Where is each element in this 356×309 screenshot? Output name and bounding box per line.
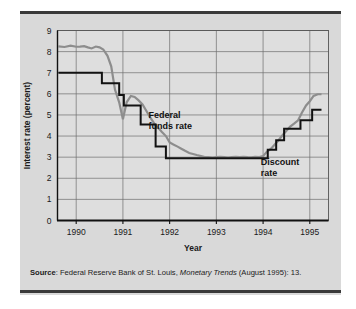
y-tick-label: 5 xyxy=(47,110,52,120)
chart-plot-wrapper: 0123456789199019911992199319941995YearIn… xyxy=(0,0,356,309)
x-axis-title: Year xyxy=(184,243,203,253)
source-note: Source: Federal Reserve Bank of St. Loui… xyxy=(30,268,332,277)
x-tick-label: 1990 xyxy=(67,227,86,237)
source-label: Source xyxy=(30,268,56,277)
y-tick-label: 3 xyxy=(47,152,52,162)
discount-rate-label-line1: Discount xyxy=(261,157,300,167)
source-text-after: (August 1995): 13. xyxy=(237,268,302,277)
plot-area-background xyxy=(58,31,329,221)
y-tick-label: 2 xyxy=(47,173,52,183)
x-tick-label: 1995 xyxy=(300,227,319,237)
y-tick-label: 6 xyxy=(47,89,52,99)
y-tick-label: 0 xyxy=(47,216,52,226)
y-tick-label: 4 xyxy=(47,131,52,141)
figure-container: 0123456789199019911992199319941995YearIn… xyxy=(0,0,356,309)
x-tick-label: 1991 xyxy=(113,227,132,237)
line-chart: 0123456789199019911992199319941995YearIn… xyxy=(0,0,356,309)
y-tick-label: 9 xyxy=(47,26,52,36)
x-tick-label: 1992 xyxy=(160,227,179,237)
x-tick-label: 1994 xyxy=(254,227,273,237)
federal-funds-rate-label-line1: Federal xyxy=(149,110,181,120)
source-text-before: Federal Reserve Bank of St. Louis, xyxy=(60,268,180,277)
source-italic-title: Monetary Trends xyxy=(180,268,237,277)
y-tick-label: 7 xyxy=(47,68,52,78)
federal-funds-rate-label-line2: funds rate xyxy=(149,121,193,131)
y-axis-title: Interest rate (percent) xyxy=(22,82,32,170)
x-tick-label: 1993 xyxy=(207,227,226,237)
y-tick-label: 8 xyxy=(47,47,52,57)
discount-rate-label-line2: rate xyxy=(261,168,278,178)
y-tick-label: 1 xyxy=(47,194,52,204)
